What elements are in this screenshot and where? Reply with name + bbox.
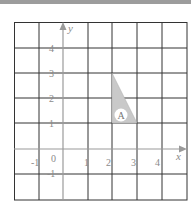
y-tick-1: 1 — [49, 118, 54, 129]
y-tick-3: 3 — [49, 68, 54, 79]
y-tick-neg1: -1 — [47, 168, 55, 179]
coordinate-grid: A y x 4 3 2 1 -1 -1 0 1 2 3 4 — [0, 0, 191, 211]
shape-label-a: A — [118, 110, 126, 121]
x-tick-3: 3 — [131, 157, 136, 168]
y-tick-4: 4 — [49, 43, 54, 54]
y-tick-2: 2 — [49, 93, 54, 104]
x-tick-neg1: -1 — [31, 157, 39, 168]
grid-lines — [14, 22, 187, 200]
x-tick-1: 1 — [84, 157, 89, 168]
x-axis-label: x — [175, 150, 181, 162]
y-axis-arrow-icon — [60, 22, 67, 30]
x-tick-2: 2 — [106, 157, 111, 168]
x-tick-4: 4 — [155, 157, 160, 168]
origin-label: 0 — [51, 153, 56, 164]
y-axis-label: y — [67, 22, 73, 34]
